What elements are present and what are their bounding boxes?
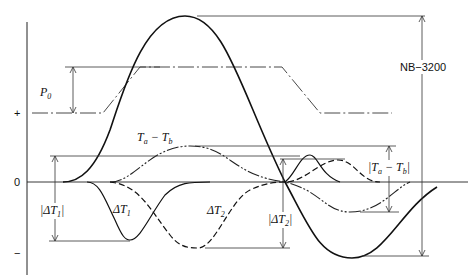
delta-t1-label: ΔT1 <box>112 202 131 218</box>
pressure-curve <box>32 67 392 113</box>
delta-t1-curve <box>87 182 210 240</box>
delta-t2-curve <box>110 160 380 248</box>
delta-t2-label: ΔT2 <box>206 203 225 219</box>
abs-delta-t1-label: |ΔT1| <box>40 203 64 219</box>
abs-delta-t2-label: |ΔT2| <box>268 212 292 228</box>
stress-cycle-diagram: + 0 − P0 NB−3200 Ta − Tb |Ta − Tb| ΔT1 |… <box>0 0 468 279</box>
plus-label: + <box>14 107 20 119</box>
p0-label: P0 <box>39 85 51 101</box>
nb3200-label: NB−3200 <box>400 61 446 73</box>
ta-tb-label: Ta − Tb <box>137 130 172 146</box>
total-stress-curve <box>63 16 437 258</box>
zero-label: 0 <box>14 176 20 188</box>
minus-label: − <box>14 247 20 259</box>
